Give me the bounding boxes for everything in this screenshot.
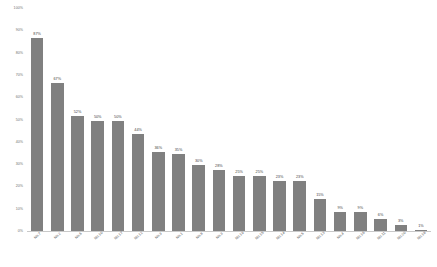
x-axis-line [27, 231, 431, 232]
x-axis-slot: No.3 [209, 235, 229, 249]
x-axis-tick: No.9 [155, 232, 163, 240]
bar-value-label: 67% [53, 78, 61, 82]
bar-value-label: 50% [114, 116, 122, 120]
bar-value-label: 23% [276, 176, 284, 180]
bar[interactable]: 35% [172, 154, 185, 232]
bar-slot: 15% [310, 9, 330, 232]
y-axis-tick: 30% [16, 163, 23, 167]
bar-value-label: 35% [175, 149, 183, 153]
y-axis-tick: 70% [16, 74, 23, 78]
x-axis-slot: No.12 [128, 235, 148, 249]
bar-slot: 25% [229, 9, 249, 232]
bar-slot: 28% [209, 9, 229, 232]
bar[interactable]: 23% [273, 181, 286, 232]
x-axis-slot: No.8 [189, 235, 209, 249]
x-axis-tick: No.12 [134, 232, 144, 241]
y-axis-tick: 80% [16, 52, 23, 56]
x-axis-slot: No.19 [229, 235, 249, 249]
x-axis-tick: No.3 [216, 232, 224, 240]
bar[interactable]: 67% [51, 83, 64, 232]
x-axis-tick: No.8 [196, 232, 204, 240]
bar[interactable]: 30% [192, 165, 205, 232]
bar-value-label: 52% [74, 111, 82, 115]
x-axis-tick: No.15 [256, 232, 266, 241]
bar-slot: 50% [108, 9, 128, 232]
x-axis-tick: No.14 [276, 232, 286, 241]
bar-slot: 23% [269, 9, 289, 232]
x-axis-tick: No.4 [337, 232, 345, 240]
bar-value-label: 87% [33, 33, 41, 37]
bar-series: 87%67%52%50%50%44%36%35%30%28%25%25%23%2… [27, 9, 431, 232]
x-axis-slot: No.9 [148, 235, 168, 249]
bar-value-label: 9% [337, 207, 343, 211]
bar-slot: 35% [168, 9, 188, 232]
x-axis-slot: No.10 [88, 235, 108, 249]
bar[interactable]: 15% [314, 199, 327, 232]
x-axis-tick: No.17 [114, 232, 124, 241]
bar-value-label: 6% [378, 214, 384, 218]
bar[interactable]: 28% [213, 170, 226, 232]
bar-value-label: 23% [296, 176, 304, 180]
bar-value-label: 44% [134, 129, 142, 133]
bar-slot: 23% [290, 9, 310, 232]
bar[interactable]: 25% [233, 176, 246, 232]
x-axis-slot: No.20 [391, 235, 411, 249]
x-axis-slot: No.13 [310, 235, 330, 249]
y-axis-tick: 10% [16, 208, 23, 212]
bar[interactable]: 44% [132, 134, 145, 232]
bar-slot: 36% [148, 9, 168, 232]
bar-slot: 30% [189, 9, 209, 232]
bar-slot: 6% [370, 9, 390, 232]
bar-slot: 44% [128, 9, 148, 232]
bar-value-label: 15% [316, 194, 324, 198]
x-axis-slot: No.17 [108, 235, 128, 249]
x-axis-tick: No.2 [54, 232, 62, 240]
bar-value-label: 30% [195, 160, 203, 164]
bar[interactable]: 52% [71, 116, 84, 232]
x-axis-slot: No.14 [269, 235, 289, 249]
y-axis-tick: 0% [18, 230, 23, 234]
bar[interactable]: 25% [253, 176, 266, 232]
x-axis-slot: No.6 [67, 235, 87, 249]
y-axis-tick: 90% [16, 30, 23, 34]
x-axis-slot: No.18 [411, 235, 431, 249]
x-axis-tick: No.13 [316, 232, 326, 241]
x-axis-tick: No.5 [297, 232, 305, 240]
x-axis: No.7No.2No.6No.10No.17No.12No.9No.1No.8N… [27, 235, 431, 249]
y-axis-tick: 60% [16, 96, 23, 100]
bar-slot: 25% [249, 9, 269, 232]
bar-slot: 52% [67, 9, 87, 232]
bar-slot: 87% [27, 9, 47, 232]
bar-slot: 67% [47, 9, 67, 232]
x-axis-slot: No.16 [350, 235, 370, 249]
bar[interactable]: 87% [31, 38, 44, 232]
bar[interactable]: 50% [112, 121, 125, 233]
bar-value-label: 9% [358, 207, 364, 211]
bar[interactable]: 36% [152, 152, 165, 232]
x-axis-tick: No.18 [417, 232, 427, 241]
x-axis-tick: No.7 [34, 232, 42, 240]
bar-slot: 1% [411, 9, 431, 232]
x-axis-slot: No.15 [249, 235, 269, 249]
x-axis-tick: No.16 [357, 232, 367, 241]
x-axis-slot: No.2 [47, 235, 67, 249]
x-axis-slot: No.5 [290, 235, 310, 249]
bar[interactable]: 50% [91, 121, 104, 233]
x-axis-tick: No.10 [94, 232, 104, 241]
bar-value-label: 3% [398, 220, 404, 224]
y-axis-tick: 100% [14, 7, 23, 11]
y-axis-tick: 20% [16, 186, 23, 190]
bar[interactable]: 9% [354, 212, 367, 232]
bar[interactable]: 9% [334, 212, 347, 232]
x-axis-tick: No.11 [377, 232, 387, 241]
bar-value-label: 50% [94, 116, 102, 120]
bar-value-label: 1% [418, 225, 424, 229]
bar-value-label: 36% [155, 147, 163, 151]
x-axis-slot: No.1 [168, 235, 188, 249]
bar-value-label: 25% [256, 171, 264, 175]
bar-slot: 9% [330, 9, 350, 232]
plot-area: 87%67%52%50%50%44%36%35%30%28%25%25%23%2… [27, 9, 431, 232]
bar[interactable]: 23% [293, 181, 306, 232]
bar[interactable]: 6% [374, 219, 387, 232]
x-axis-slot: No.4 [330, 235, 350, 249]
